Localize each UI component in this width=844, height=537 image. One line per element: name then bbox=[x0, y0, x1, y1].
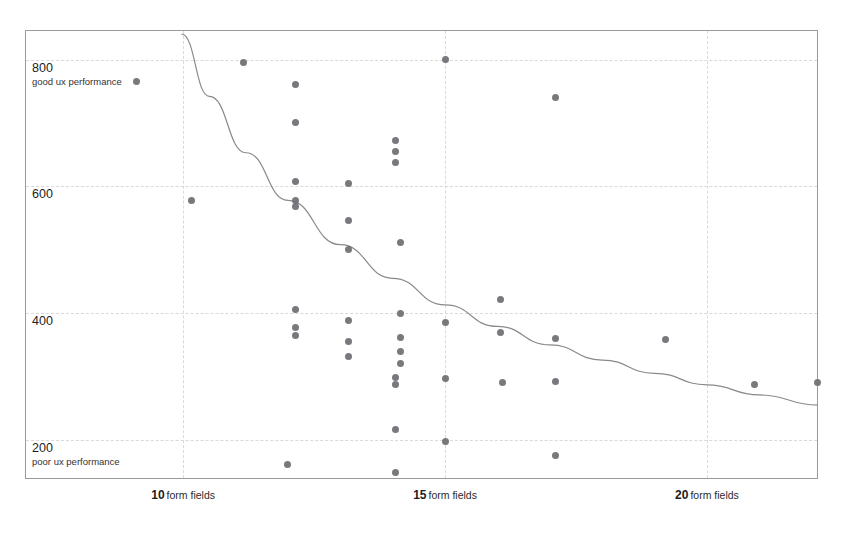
data-point bbox=[345, 246, 352, 253]
data-point bbox=[292, 203, 299, 210]
x-tick-label: 10form fields bbox=[151, 488, 215, 502]
y-tick-value: 200 bbox=[32, 442, 120, 455]
data-point bbox=[133, 78, 140, 85]
data-point bbox=[284, 461, 291, 468]
y-tick-note: poor ux performance bbox=[32, 455, 120, 468]
gridline-horizontal bbox=[26, 60, 817, 61]
x-tick-value: 10 bbox=[151, 488, 164, 502]
data-point bbox=[292, 324, 299, 331]
data-point bbox=[392, 137, 399, 144]
data-point bbox=[392, 159, 399, 166]
data-point bbox=[397, 310, 404, 317]
x-tick-unit: form fields bbox=[429, 489, 477, 501]
data-point bbox=[292, 332, 299, 339]
gridline-vertical bbox=[707, 31, 708, 478]
data-point bbox=[397, 348, 404, 355]
data-point bbox=[552, 452, 559, 459]
data-point bbox=[397, 360, 404, 367]
data-point bbox=[552, 378, 559, 385]
gridline-vertical bbox=[183, 31, 184, 478]
data-point bbox=[292, 81, 299, 88]
data-point bbox=[188, 197, 195, 204]
y-tick-label: 800good ux performance bbox=[32, 62, 122, 88]
data-point bbox=[442, 375, 449, 382]
y-tick-label: 600 bbox=[32, 188, 53, 201]
y-tick-label: 200poor ux performance bbox=[32, 442, 120, 468]
data-point bbox=[240, 59, 247, 66]
gridline-horizontal bbox=[26, 440, 817, 441]
plot-area: 800good ux performance600400200poor ux p… bbox=[25, 30, 818, 479]
data-point bbox=[292, 119, 299, 126]
gridline-horizontal bbox=[26, 313, 817, 314]
data-point bbox=[442, 56, 449, 63]
data-point bbox=[392, 469, 399, 476]
data-point bbox=[392, 148, 399, 155]
gridline-vertical bbox=[445, 31, 446, 478]
data-point bbox=[751, 381, 758, 388]
x-tick-value: 20 bbox=[675, 488, 688, 502]
x-tick-label: 20form fields bbox=[675, 488, 739, 502]
data-point bbox=[497, 296, 504, 303]
y-tick-value: 800 bbox=[32, 62, 122, 75]
data-point bbox=[552, 94, 559, 101]
gridline-horizontal bbox=[26, 186, 817, 187]
data-point bbox=[397, 239, 404, 246]
chart-figure: Checkout Usability Performance / Number … bbox=[0, 0, 844, 537]
data-point bbox=[345, 338, 352, 345]
data-point bbox=[442, 438, 449, 445]
data-point bbox=[499, 379, 506, 386]
data-point bbox=[814, 379, 821, 386]
data-point bbox=[345, 353, 352, 360]
y-tick-value: 400 bbox=[32, 315, 53, 328]
x-tick-value: 15 bbox=[413, 488, 426, 502]
data-point bbox=[292, 178, 299, 185]
data-point bbox=[345, 217, 352, 224]
data-point bbox=[552, 335, 559, 342]
data-point bbox=[345, 317, 352, 324]
x-tick-label: 15form fields bbox=[413, 488, 477, 502]
data-point bbox=[662, 336, 669, 343]
x-tick-unit: form fields bbox=[690, 489, 738, 501]
data-point bbox=[397, 334, 404, 341]
trend-line bbox=[26, 31, 817, 478]
y-tick-label: 400 bbox=[32, 315, 53, 328]
y-tick-note: good ux performance bbox=[32, 75, 122, 88]
data-point bbox=[442, 319, 449, 326]
data-point bbox=[497, 329, 504, 336]
data-point bbox=[392, 381, 399, 388]
data-point bbox=[345, 180, 352, 187]
y-tick-value: 600 bbox=[32, 188, 53, 201]
x-tick-unit: form fields bbox=[167, 489, 215, 501]
data-point bbox=[392, 426, 399, 433]
